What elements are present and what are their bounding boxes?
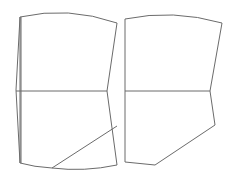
pattern-diagram-canvas [0,0,234,183]
left-piece-outer-edge [16,17,20,163]
right-pattern-piece [125,15,222,165]
pattern-diagram-svg [0,0,234,183]
right-piece-outline [125,15,222,165]
left-pattern-piece [16,13,117,170]
left-piece-diagonal-line [52,126,117,168]
